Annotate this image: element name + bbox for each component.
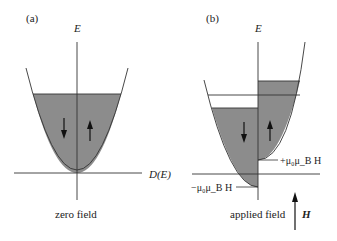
- minus-splitting-label: −μ₀μ_B H: [191, 182, 232, 193]
- caption-a: zero field: [55, 208, 97, 220]
- density-of-states-diagram: (a) E zero field D(E) (b) E +μ₀μ_B H: [0, 0, 337, 241]
- caption-b: applied field: [230, 208, 286, 220]
- panel-a: (a) E zero field: [14, 12, 142, 220]
- diagram-canvas: (a) E zero field D(E) (b) E +μ₀μ_B H: [0, 0, 337, 241]
- panel-a-label: (a): [26, 12, 39, 25]
- field-symbol: H: [301, 208, 311, 220]
- panel-b: (b) E +μ₀μ_B H −μ₀μ_B H applied field H: [191, 12, 321, 230]
- energy-label-a: E: [73, 22, 81, 34]
- dos-label: D(E): [148, 168, 171, 181]
- filled-band-down: [212, 108, 258, 187]
- energy-label-b: E: [254, 22, 262, 34]
- plus-splitting-label: +μ₀μ_B H: [280, 155, 321, 166]
- filled-band-up: [258, 81, 300, 160]
- field-arrow: [292, 192, 298, 230]
- panel-b-label: (b): [206, 12, 219, 25]
